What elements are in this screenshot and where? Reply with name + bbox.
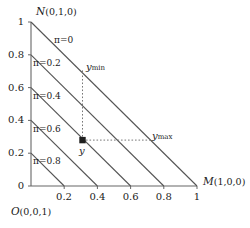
vertex-N-symbol: N — [36, 5, 45, 17]
vertex-N-coord: (0,1,0) — [45, 6, 77, 17]
vertex-label-N: N(0,1,0) — [36, 6, 77, 17]
vertex-O-symbol: O — [11, 205, 20, 217]
x-tick-label-0.6: 0.6 — [120, 192, 142, 202]
data-point-marker-y — [79, 137, 85, 143]
data-point-label-y: y — [79, 146, 85, 156]
iso-line-pi-0.4 — [31, 88, 131, 186]
y-tick-label-0.4: 0.4 — [2, 115, 24, 125]
iso-label-pi-0.8: π=0.8 — [33, 157, 61, 166]
x-tick-label-0.8: 0.8 — [153, 192, 175, 202]
iso-line-pi-0.2 — [31, 55, 164, 186]
vertex-M-symbol: M — [203, 175, 214, 187]
y-tick-label-0.8: 0.8 — [2, 50, 24, 60]
vertex-label-O: O(0,0,1) — [11, 206, 51, 217]
vertex-label-M: M(1,0,0) — [203, 176, 245, 187]
vertex-M-coord: (1,0,0) — [214, 176, 246, 187]
x-tick-label-0.2: 0.2 — [53, 192, 75, 202]
projection-label-ymax: ymax — [152, 131, 172, 141]
iso-label-pi-0.4: π=0.4 — [33, 92, 61, 101]
ymax-subscript: max — [158, 133, 173, 141]
ymin-subscript: min — [92, 64, 105, 72]
iso-label-pi-0: π=0 — [54, 36, 73, 45]
x-tick-label-1: 1 — [186, 192, 208, 202]
x-tick-label-0.4: 0.4 — [86, 192, 108, 202]
y-tick-label-1: 1 — [2, 17, 24, 27]
y-tick-label-0: 0 — [2, 181, 24, 191]
y-tick-label-0.2: 0.2 — [2, 148, 24, 158]
projection-label-ymin: ymin — [86, 62, 105, 72]
y-tick-label-0.6: 0.6 — [2, 83, 24, 93]
iso-label-pi-0.2: π=0.2 — [33, 59, 61, 68]
ternary-simplex-figure: 1 0.8 0.6 0.4 0.2 0 0.2 0.4 0.6 0.8 1 N(… — [0, 0, 250, 228]
vertex-O-coord: (0,0,1) — [20, 206, 52, 217]
iso-label-pi-0.6: π=0.6 — [33, 125, 61, 134]
